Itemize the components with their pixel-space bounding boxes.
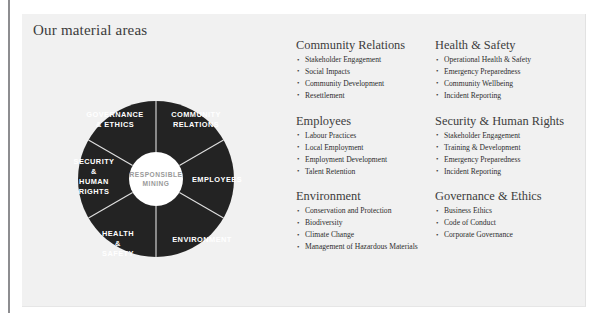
segment-text-line: & xyxy=(115,239,121,248)
topic-item: Training & Development xyxy=(435,143,585,154)
topic-item: Corporate Governance xyxy=(435,230,585,241)
section-title-environment: Environment xyxy=(296,189,435,204)
segment-text-line: RELATIONS xyxy=(173,120,219,129)
topic-item: Stakeholder Engagement xyxy=(435,131,585,142)
section-title-community-relations: Community Relations xyxy=(296,38,435,53)
topic-item: Climate Change xyxy=(296,230,435,241)
page-title: Our material areas xyxy=(33,22,147,39)
segment-text-line: & ETHICS xyxy=(96,120,134,129)
topic-item: Stakeholder Engagement xyxy=(296,55,435,66)
segment-text-line: COMMUNITY xyxy=(171,110,221,119)
topic-item: Conservation and Protection xyxy=(296,206,435,217)
center-label-line-1: RESPONSIBLE xyxy=(130,171,183,178)
topic-item: Code of Conduct xyxy=(435,218,585,229)
topic-item: Emergency Preparedness xyxy=(435,155,585,166)
segment-text-line: RIGHTS xyxy=(79,187,110,196)
left-margin-rule xyxy=(8,0,10,313)
segment-text-line: & xyxy=(91,167,97,176)
segment-text-line: ENVIRONMENT xyxy=(172,235,232,244)
material-topics-columns: Community Relations Stakeholder Engageme… xyxy=(296,38,585,254)
segment-label-employees: EMPLOYEES xyxy=(192,175,242,184)
section-health-safety: Health & Safety Operational Health & Saf… xyxy=(435,38,585,102)
donut-svg: COMMUNITY RELATIONS EMPLOYEES ENVIRONMEN… xyxy=(30,56,282,302)
donut-inner-core xyxy=(129,152,183,206)
segment-label-security-human-rights: SECURITY & HUMAN RIGHTS xyxy=(74,157,115,196)
topic-list-security-human-rights: Stakeholder Engagement Training & Develo… xyxy=(435,131,585,178)
topic-item: Management of Hazardous Materials xyxy=(296,242,435,253)
topic-item: Biodiversity xyxy=(296,218,435,229)
segment-text-line: HUMAN xyxy=(79,177,109,186)
topic-item: Business Ethics xyxy=(435,206,585,217)
section-title-health-safety: Health & Safety xyxy=(435,38,585,53)
segment-text-line: EMPLOYEES xyxy=(192,175,242,184)
topic-item: Talent Retention xyxy=(296,167,435,178)
topic-item: Incident Reporting xyxy=(435,91,585,102)
topic-item: Operational Health & Safety xyxy=(435,55,585,66)
section-security-human-rights: Security & Human Rights Stakeholder Enga… xyxy=(435,114,585,178)
center-label-line-2: MINING xyxy=(143,180,170,187)
topic-list-employees: Labour Practices Local Employment Employ… xyxy=(296,131,435,178)
segment-text-line: SAFETY xyxy=(102,249,134,258)
section-title-employees: Employees xyxy=(296,114,435,129)
topic-item: Employment Development xyxy=(296,155,435,166)
section-governance-ethics: Governance & Ethics Business Ethics Code… xyxy=(435,189,585,241)
section-employees: Employees Labour Practices Local Employm… xyxy=(296,114,435,178)
topic-item: Labour Practices xyxy=(296,131,435,142)
topic-list-governance-ethics: Business Ethics Code of Conduct Corporat… xyxy=(435,206,585,241)
topic-item: Emergency Preparedness xyxy=(435,67,585,78)
topic-item: Community Wellbeing xyxy=(435,79,585,90)
section-title-security-human-rights: Security & Human Rights xyxy=(435,114,585,129)
page-root: Our material areas xyxy=(0,0,601,328)
topics-column-right: Health & Safety Operational Health & Saf… xyxy=(435,38,585,254)
topic-list-environment: Conservation and Protection Biodiversity… xyxy=(296,206,435,253)
section-community-relations: Community Relations Stakeholder Engageme… xyxy=(296,38,435,102)
segment-text-line: SECURITY xyxy=(74,157,115,166)
segment-text-line: HEALTH xyxy=(102,229,134,238)
topic-list-community-relations: Stakeholder Engagement Social Impacts Co… xyxy=(296,55,435,102)
topics-column-left: Community Relations Stakeholder Engageme… xyxy=(296,38,435,254)
topic-item: Local Employment xyxy=(296,143,435,154)
material-areas-donut-chart: COMMUNITY RELATIONS EMPLOYEES ENVIRONMEN… xyxy=(30,56,282,302)
segment-label-community-relations: COMMUNITY RELATIONS xyxy=(171,110,221,129)
section-environment: Environment Conservation and Protection … xyxy=(296,189,435,253)
topic-item: Incident Reporting xyxy=(435,167,585,178)
material-areas-panel: Our material areas xyxy=(22,14,586,307)
topic-list-health-safety: Operational Health & Safety Emergency Pr… xyxy=(435,55,585,102)
topic-item: Community Development xyxy=(296,79,435,90)
segment-text-line: GOVERNANCE xyxy=(86,110,143,119)
segment-label-environment: ENVIRONMENT xyxy=(172,235,232,244)
section-title-governance-ethics: Governance & Ethics xyxy=(435,189,585,204)
topic-item: Resettlement xyxy=(296,91,435,102)
topic-item: Social Impacts xyxy=(296,67,435,78)
